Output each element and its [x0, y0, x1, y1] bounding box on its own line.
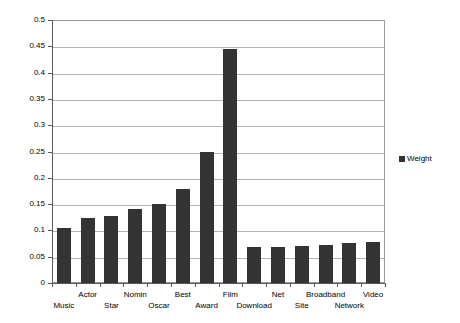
- bar: [81, 218, 95, 283]
- y-axis-tick-mark: [48, 20, 52, 21]
- gridline: [53, 100, 384, 101]
- bar: [223, 49, 237, 283]
- gridline: [53, 153, 384, 154]
- gridline: [53, 74, 384, 75]
- x-axis-tick-mark: [314, 283, 315, 287]
- bar: [128, 209, 142, 283]
- y-axis-tick-label: 0.5: [34, 16, 45, 24]
- x-axis-tick-mark: [100, 283, 101, 287]
- bar: [295, 246, 309, 283]
- x-axis-tick-mark: [242, 283, 243, 287]
- legend: Weight: [399, 155, 432, 163]
- bar: [319, 245, 333, 283]
- y-axis-tick-label: 0.1: [34, 226, 45, 234]
- x-axis-category-label: Network: [309, 301, 389, 310]
- y-axis-tick-label: 0.2: [34, 174, 45, 182]
- gridline: [53, 179, 384, 180]
- y-axis-line: [52, 20, 53, 284]
- x-axis-tick-mark: [147, 283, 148, 287]
- x-axis-tick-mark: [76, 283, 77, 287]
- y-axis-tick-mark: [48, 46, 52, 47]
- y-axis-tick-mark: [48, 152, 52, 153]
- y-axis-tick-label: 0.25: [29, 148, 45, 156]
- y-axis-tick-mark: [48, 257, 52, 258]
- x-axis-tick-mark: [337, 283, 338, 287]
- y-axis-tick-label: 0: [41, 279, 45, 287]
- plot-area: [52, 20, 385, 283]
- y-axis-tick-label: 0.45: [29, 42, 45, 50]
- bar: [366, 242, 380, 283]
- bar: [57, 228, 71, 283]
- x-axis-tick-mark: [123, 283, 124, 287]
- bar-chart: 0.50.450.40.350.30.250.20.150.10.050 Mus…: [0, 0, 460, 323]
- bar: [342, 243, 356, 283]
- x-axis-tick-mark: [52, 283, 53, 287]
- x-axis-tick-mark: [219, 283, 220, 287]
- y-axis-tick-mark: [48, 204, 52, 205]
- y-axis-tick-mark: [48, 125, 52, 126]
- y-axis-tick-label: 0.15: [29, 200, 45, 208]
- y-axis-tick-mark: [48, 178, 52, 179]
- bar: [152, 204, 166, 283]
- x-axis-tick-mark: [385, 283, 386, 287]
- gridline: [53, 47, 384, 48]
- y-axis-tick-label: 0.4: [34, 69, 45, 77]
- x-axis-tick-mark: [361, 283, 362, 287]
- bar: [104, 216, 118, 283]
- bar: [176, 189, 190, 283]
- gridline: [53, 126, 384, 127]
- x-axis-tick-mark: [171, 283, 172, 287]
- gridline: [53, 231, 384, 232]
- x-axis-tick-mark: [290, 283, 291, 287]
- gridline: [53, 258, 384, 259]
- y-axis-tick-mark: [48, 99, 52, 100]
- y-axis-tick-label: 0.35: [29, 95, 45, 103]
- bar: [271, 247, 285, 283]
- legend-swatch-weight: [399, 156, 405, 162]
- x-axis-category-label: Video: [333, 290, 413, 299]
- x-axis-tick-mark: [266, 283, 267, 287]
- bar: [200, 152, 214, 283]
- x-axis-tick-mark: [195, 283, 196, 287]
- bar: [247, 247, 261, 283]
- y-axis-tick-label: 0.05: [29, 253, 45, 261]
- y-axis-tick-mark: [48, 73, 52, 74]
- y-axis-tick-label: 0.3: [34, 121, 45, 129]
- gridline: [53, 205, 384, 206]
- legend-label-weight: Weight: [407, 155, 432, 163]
- y-axis-tick-mark: [48, 230, 52, 231]
